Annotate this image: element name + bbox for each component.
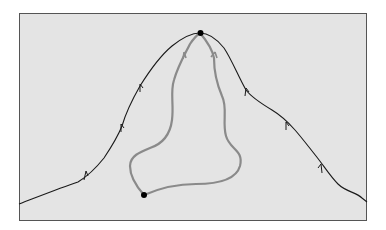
summit-point [198, 30, 204, 36]
diagram-panel [20, 14, 367, 221]
mountain-diagram [0, 0, 386, 230]
base-point [141, 192, 147, 198]
